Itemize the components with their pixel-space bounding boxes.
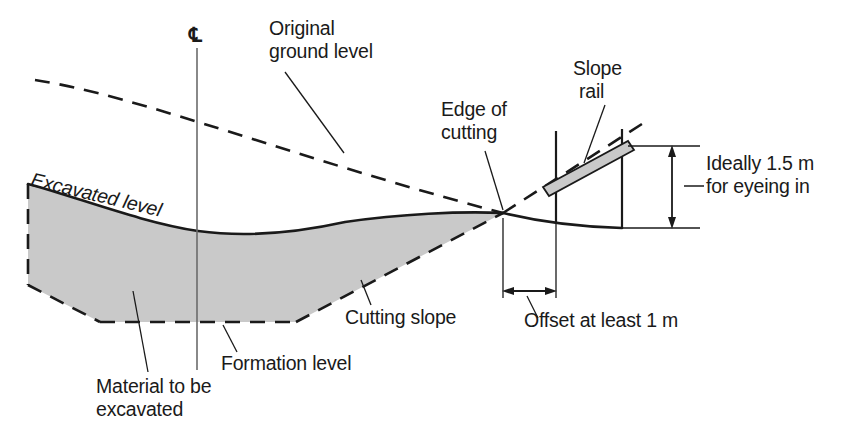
- offset-dimension-arrowhead-left: [502, 287, 514, 295]
- vertical-dimension-arrowhead-bottom: [668, 217, 676, 229]
- edge-of-cutting-label-line1: Edge of: [441, 98, 507, 121]
- ideally-height-label-line2: for eyeing in: [706, 175, 810, 198]
- cutting-slope-label: Cutting slope: [345, 306, 456, 329]
- original-ground-level-label-line1: Original: [269, 17, 335, 40]
- original-ground-level-leader: [285, 72, 344, 153]
- original-ground-level-label-line2: ground level: [269, 40, 373, 63]
- slope-rail-label-line2: rail: [579, 80, 604, 103]
- diagram-root: ℄ Original ground level Excavated level …: [0, 0, 845, 441]
- ideally-height-label-line1: Ideally 1.5 m: [706, 152, 814, 175]
- edge-of-cutting-label-line2: cutting: [441, 121, 497, 144]
- vertical-dimension-arrowhead-top: [668, 145, 676, 157]
- formation-level-leader: [223, 325, 237, 352]
- offset-label: Offset at least 1 m: [524, 309, 678, 332]
- centre-line-symbol: ℄: [189, 23, 202, 47]
- offset-dimension-arrowhead-right: [545, 287, 557, 295]
- slope-extension-line: [503, 122, 645, 213]
- material-excavated-label-line1: Material to be: [96, 375, 211, 398]
- formation-level-label: Formation level: [221, 352, 351, 375]
- ground-right-of-cutting-line: [503, 213, 622, 228]
- slope-rail-label-line1: Slope: [573, 57, 622, 80]
- edge-of-cutting-leader: [485, 151, 503, 210]
- material-excavated-label-line2: excavated: [96, 398, 183, 421]
